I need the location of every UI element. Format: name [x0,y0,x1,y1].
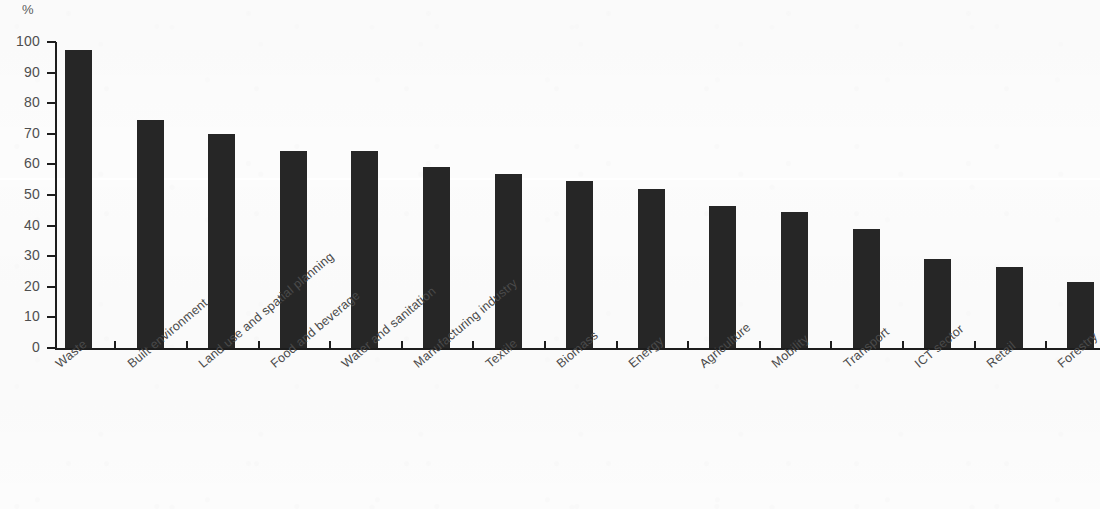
x-axis-tick [830,341,832,349]
bar [137,120,164,348]
x-axis-tick [616,341,618,349]
y-axis-tick-label: 80 [0,94,40,110]
x-axis-tick [687,341,689,349]
y-axis-tick-label: 30 [0,247,40,263]
bar [996,267,1023,348]
y-axis-tick-label: 100 [0,33,40,49]
y-axis-tick-label: 70 [0,125,40,141]
x-axis-tick [114,341,116,349]
y-axis-tick [47,133,56,135]
bar [208,134,235,348]
y-axis-tick [47,316,56,318]
x-axis-tick [401,341,403,349]
y-axis-tick-label: 0 [0,339,40,355]
x-axis-tick [186,341,188,349]
y-axis-tick [47,72,56,74]
y-axis-tick-label: 60 [0,155,40,171]
y-axis-tick [47,225,56,227]
y-axis-tick-label: 50 [0,186,40,202]
scan-artifact-line [0,178,1100,180]
y-axis-unit-label: % [22,2,34,17]
bar [65,50,92,348]
bar [638,189,665,348]
x-axis-tick [974,341,976,349]
y-axis-tick-label: 10 [0,308,40,324]
x-axis-tick [258,341,260,349]
bar [495,174,522,348]
y-axis-tick [47,286,56,288]
y-axis-tick-label: 40 [0,217,40,233]
bar [423,167,450,348]
paper-texture-overlay [0,0,1100,509]
x-axis-tick [902,341,904,349]
x-axis-tick [329,341,331,349]
bar [566,181,593,348]
bar [709,206,736,348]
y-axis-tick [47,102,56,104]
y-axis-tick [47,347,56,349]
bar-chart: % 0102030405060708090100 WasteBuilt envi… [0,0,1100,509]
y-axis-tick [47,255,56,257]
x-axis-tick [1045,341,1047,349]
y-axis-tick-label: 20 [0,278,40,294]
y-axis-tick [47,194,56,196]
x-axis-tick [544,341,546,349]
bar [280,151,307,348]
bar [351,151,378,348]
x-axis-tick [472,341,474,349]
x-axis-tick [759,341,761,349]
bar [781,212,808,348]
y-axis-tick-label: 90 [0,64,40,80]
y-axis-tick [47,163,56,165]
y-axis-tick [47,41,56,43]
